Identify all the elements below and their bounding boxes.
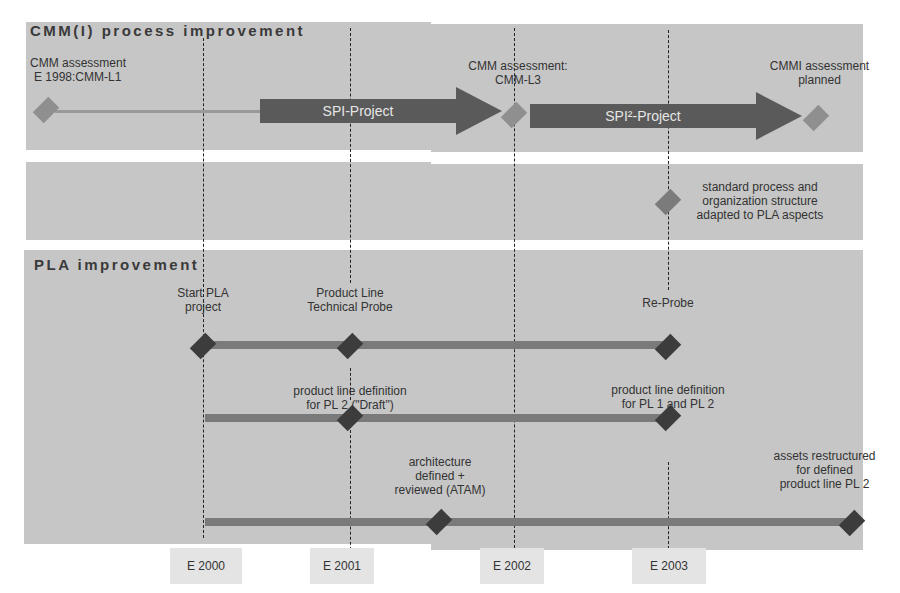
reprobe-label: Re-Probe <box>630 296 706 310</box>
pla-section-title: PLA improvement <box>34 256 199 273</box>
year-line-2003-lower <box>668 462 669 554</box>
pl2-draft-label: product line definition for PL 2 ("Draft… <box>285 384 415 412</box>
cmmi-planned-label: CMMI assessment planned <box>762 59 877 87</box>
technical-probe-label: Product Line Technical Probe <box>295 286 405 314</box>
cmm-l1-label: CMM assessment E 1998:CMM-L1 <box>30 56 126 84</box>
start-pla-label: Start PLA project <box>163 286 243 314</box>
year-line-2001-lower <box>350 430 351 555</box>
pla-track-1 <box>205 341 667 349</box>
spi2-project-arrow: SPI²-Project <box>530 92 802 140</box>
spi-project-label: SPI-Project <box>260 99 456 123</box>
process-adaptation-label: standard process and organization struct… <box>685 180 835 222</box>
year-label-2003: E 2003 <box>632 548 706 584</box>
cmm-baseline <box>55 110 260 113</box>
year-line-2001-upper <box>350 28 351 283</box>
year-label-2002: E 2002 <box>480 548 544 584</box>
arrow-head-icon <box>756 92 802 140</box>
spi2-project-label: SPI²-Project <box>530 104 756 128</box>
year-line-2003-upper <box>668 30 669 290</box>
assets-restructured-label: assets restructured for defined product … <box>762 449 887 491</box>
arrow-head-icon <box>456 87 502 135</box>
atam-label: architecture defined + reviewed (ATAM) <box>385 455 495 497</box>
cmm-section-title: CMM(I) process improvement <box>30 22 305 39</box>
pla-track-3 <box>205 518 850 526</box>
cmm-l3-label: CMM assessment: CMM-L3 <box>458 59 578 87</box>
spi-project-arrow: SPI-Project <box>260 87 500 135</box>
process-band <box>26 162 431 240</box>
year-label-2001: E 2001 <box>310 548 374 584</box>
year-label-2000: E 2000 <box>170 548 242 584</box>
pl12-definition-label: product line definition for PL 1 and PL … <box>603 383 733 411</box>
pla-track-2 <box>205 414 667 422</box>
